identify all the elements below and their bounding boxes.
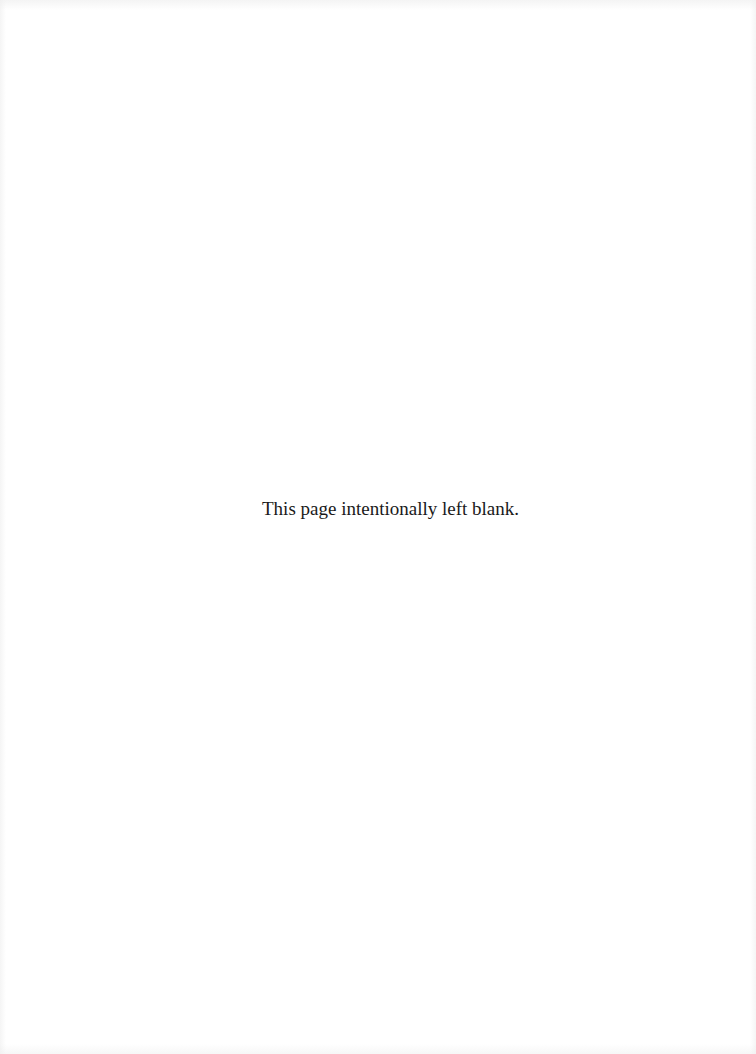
- scan-edge-left: [0, 0, 6, 1054]
- document-page: This page intentionally left blank.: [0, 0, 756, 1054]
- scan-edge-bottom: [0, 1044, 756, 1054]
- scan-edge-right: [750, 0, 756, 1054]
- scan-edge-top: [0, 0, 756, 10]
- blank-page-notice: This page intentionally left blank.: [0, 497, 756, 521]
